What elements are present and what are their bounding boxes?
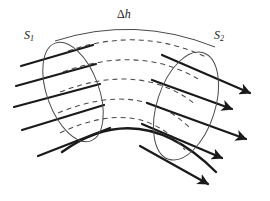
field-lines-outflow: [140, 55, 250, 184]
delta-symbol: Δ: [117, 7, 125, 21]
field-lines-interior: [58, 40, 206, 150]
field-line-inflow-2: [16, 64, 96, 86]
tube-top-boundary: [55, 29, 215, 47]
label-dh-variable: h: [125, 7, 131, 21]
label-s1-subscript: 1: [30, 34, 34, 43]
field-line-interior-1: [68, 40, 206, 57]
flux-tube-svg: [0, 0, 270, 201]
field-lines-inflow: [14, 45, 110, 156]
label-s2-subscript: 2: [220, 34, 224, 43]
flux-tube-figure: S1 S2 Δh: [0, 0, 270, 201]
field-line-outflow-5: [140, 146, 208, 184]
label-cross-section-s2: S2: [214, 29, 224, 41]
field-line-inflow-4: [22, 105, 104, 130]
label-tube-length-delta-h: Δh: [117, 8, 131, 20]
label-cross-section-s1: S1: [24, 29, 34, 41]
field-line-outflow-2: [152, 80, 232, 109]
field-line-interior-3: [60, 79, 195, 104]
